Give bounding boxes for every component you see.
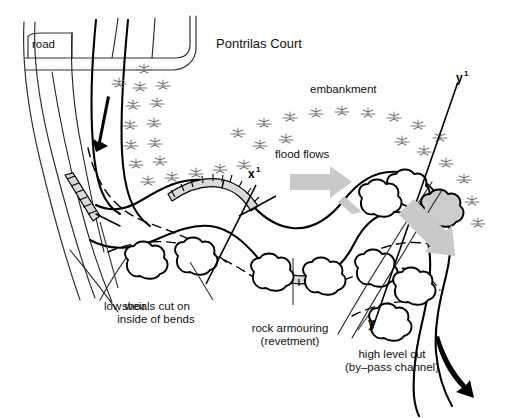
label-rock-armouring-line1: rock armouring	[252, 322, 329, 334]
river-engineering-diagram: road Pontrilas Court embankment flood fl…	[0, 0, 520, 418]
label-section-y-top: y	[456, 71, 463, 85]
label-rock-armouring-line2: (revetment)	[261, 335, 320, 347]
label-high-level-cut-line2: (by–pass channel)	[345, 361, 439, 373]
diagram-canvas: road Pontrilas Court embankment flood fl…	[0, 0, 520, 418]
label-high-level-cut-line1: high level cut	[358, 348, 426, 360]
river-channel-upstream	[92, 20, 150, 226]
label-title: Pontrilas Court	[216, 36, 302, 51]
downstream-flow-arrow	[435, 336, 474, 398]
label-section-x-top: x	[248, 167, 255, 181]
label-shoals-line1: shoals cut on	[122, 300, 190, 312]
floodplain-dashed-lines	[88, 148, 440, 316]
label-flood-flows: flood flows	[275, 148, 330, 160]
label-road: road	[32, 38, 55, 50]
label-section-y-top-sup: 1	[464, 69, 469, 78]
label-shoals-line2: inside of bends	[117, 313, 195, 325]
label-section-x-top-sup: 1	[256, 165, 261, 174]
label-section-y-bottom: y	[368, 316, 375, 330]
label-embankment: embankment	[310, 83, 377, 95]
